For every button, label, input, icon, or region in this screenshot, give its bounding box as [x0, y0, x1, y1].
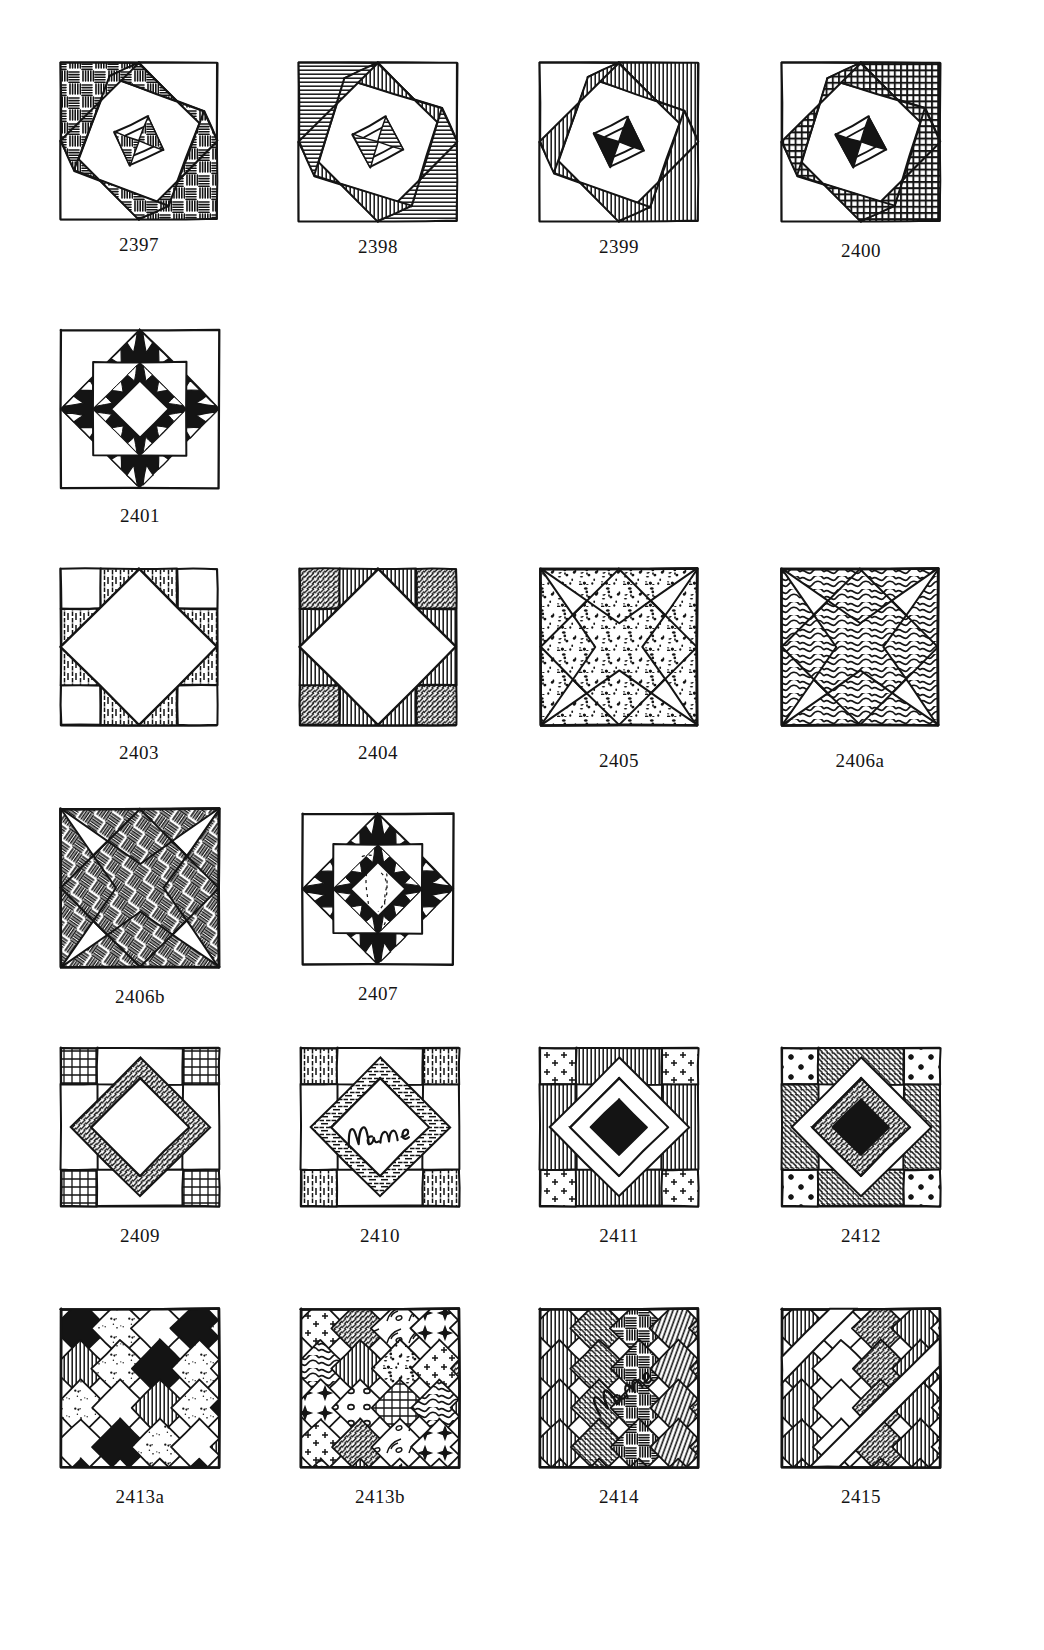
block-label-2407: 2407: [358, 984, 398, 1003]
quilt-block-drawing-2413b: [295, 1303, 465, 1473]
quilt-block-drawing-2406b: [55, 803, 225, 973]
block-label-2413b: 2413b: [355, 1487, 405, 1506]
pattern-plate-page: 239723982399240024012403240424052406a240…: [0, 0, 1044, 1650]
quilt-block-2406b: 2406b: [55, 803, 225, 1006]
block-label-2403: 2403: [119, 743, 159, 762]
quilt-block-2413a: 2413a: [55, 1303, 225, 1506]
quilt-block-drawing-2413a: [55, 1303, 225, 1473]
quilt-block-2405: 2405: [535, 563, 703, 770]
quilt-block-2401: 2401: [55, 324, 225, 525]
quilt-block-drawing-2412: [776, 1042, 946, 1212]
block-label-2397: 2397: [119, 235, 159, 254]
quilt-block-2407: 2407: [297, 808, 459, 1003]
quilt-block-drawing-2406a: [776, 563, 944, 731]
block-label-2409: 2409: [120, 1226, 160, 1245]
quilt-block-2415: 2415: [776, 1303, 946, 1506]
quilt-block-2413b: 2413b: [295, 1303, 465, 1506]
quilt-block-drawing-2414: Name: [534, 1303, 704, 1473]
block-label-2405: 2405: [599, 751, 639, 770]
block-label-2406a: 2406a: [836, 751, 885, 770]
block-label-2398: 2398: [358, 237, 398, 256]
quilt-block-drawing-2411: [534, 1042, 704, 1212]
block-label-2413a: 2413a: [116, 1487, 165, 1506]
quilt-block-drawing-2403: [55, 563, 223, 731]
block-label-2414: 2414: [599, 1487, 639, 1506]
quilt-block-2414: Name2414: [534, 1303, 704, 1506]
quilt-block-drawing-2407: [297, 808, 459, 970]
quilt-block-2399: 2399: [534, 57, 704, 256]
quilt-block-2398: 2398: [293, 57, 463, 256]
block-label-2401: 2401: [120, 506, 160, 525]
block-label-2410: 2410: [360, 1226, 400, 1245]
block-label-2412: 2412: [841, 1226, 881, 1245]
block-label-2411: 2411: [599, 1226, 638, 1245]
quilt-block-2406a: 2406a: [776, 563, 944, 770]
quilt-block-drawing-2410: Name: [295, 1042, 465, 1212]
quilt-block-2410: Name2410: [295, 1042, 465, 1245]
quilt-block-drawing-2404: [294, 563, 462, 731]
quilt-block-drawing-2401: [55, 324, 225, 494]
quilt-block-2409: 2409: [55, 1042, 225, 1245]
quilt-block-2400: 2400: [776, 57, 946, 260]
quilt-block-drawing-2409: [55, 1042, 225, 1212]
quilt-block-2412: 2412: [776, 1042, 946, 1245]
block-label-2415: 2415: [841, 1487, 881, 1506]
block-label-2406b: 2406b: [115, 987, 165, 1006]
quilt-block-2404: 2404: [294, 563, 462, 762]
quilt-block-drawing-2415: [776, 1303, 946, 1473]
block-label-2404: 2404: [358, 743, 398, 762]
quilt-block-drawing-2405: [535, 563, 703, 731]
block-label-2400: 2400: [841, 241, 881, 260]
quilt-block-2397: 2397: [55, 57, 223, 254]
quilt-block-drawing-2399: [534, 57, 704, 227]
quilt-block-drawing-2397: [55, 57, 223, 225]
quilt-block-2403: 2403: [55, 563, 223, 762]
quilt-block-drawing-2400: [776, 57, 946, 227]
quilt-block-2411: 2411: [534, 1042, 704, 1245]
block-label-2399: 2399: [599, 237, 639, 256]
quilt-block-drawing-2398: [293, 57, 463, 227]
